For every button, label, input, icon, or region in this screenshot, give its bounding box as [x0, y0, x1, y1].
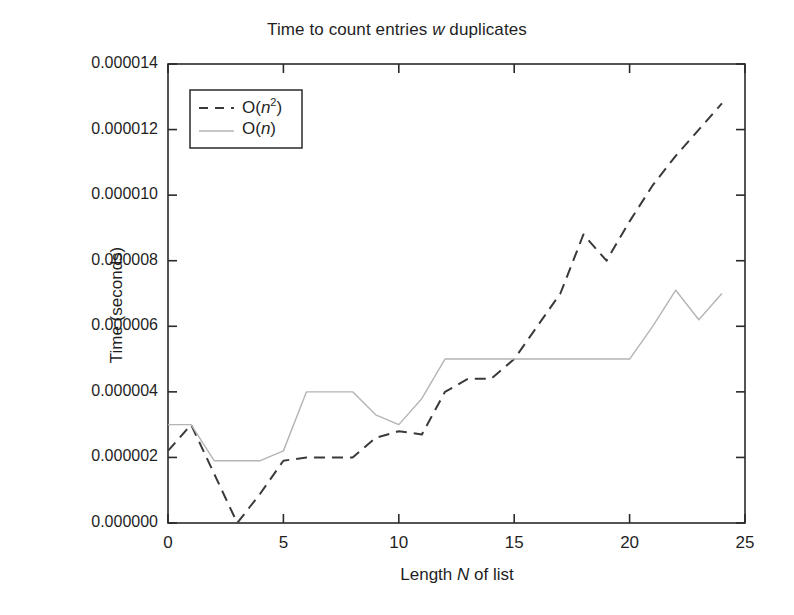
series-line-on	[168, 290, 722, 460]
plot-area	[0, 0, 794, 615]
legend-label-prefix: O(	[242, 119, 261, 138]
legend-label-on: O(n)	[242, 119, 276, 139]
data-series-layer	[168, 103, 722, 523]
legend-label-prefix: O(	[242, 98, 261, 117]
figure-container: Time to count entries w duplicates Time …	[0, 0, 794, 615]
legend-label-variable: n	[261, 119, 270, 138]
legend-label-suffix: )	[270, 119, 276, 138]
legend-label-suffix: )	[276, 98, 282, 117]
legend-label-variable: n	[261, 98, 270, 117]
legend-label-on2: O(n2)	[242, 96, 282, 118]
